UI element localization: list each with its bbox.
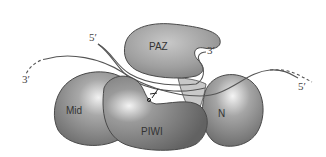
domain-paz [124, 24, 220, 78]
label-piwi: PIWI [141, 126, 163, 137]
label-target-5prime: 5′ [298, 80, 306, 92]
label-mid: Mid [66, 105, 82, 116]
argonaute-diagram: PAZ Mid PIWI N 5′ 3′ 3′ 5′ [0, 0, 326, 157]
label-guide-5prime: 5′ [89, 31, 97, 43]
label-paz: PAZ [149, 41, 168, 52]
label-guide-3prime: 3′ [207, 44, 215, 56]
label-target-3prime: 3′ [22, 73, 30, 85]
label-n: N [218, 108, 225, 119]
domain-n [202, 75, 263, 147]
